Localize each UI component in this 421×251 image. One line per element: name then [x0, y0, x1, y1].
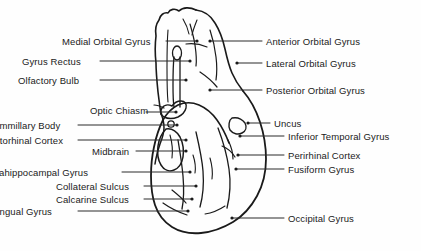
lingual-gyrus-edge — [163, 203, 187, 215]
leader-dot-left-5 — [184, 138, 187, 141]
label-gyrus-rectus: Gyrus Rectus — [22, 56, 81, 67]
orbital-sulcus-short-a — [183, 19, 189, 34]
fusiform-detail — [210, 158, 212, 179]
orbital-sulcus-posterior — [200, 72, 217, 87]
orbital-sulcus-lateral — [210, 30, 217, 80]
label-lingual-gyrus: Lingual Gyrus — [0, 206, 52, 217]
label-perirhinal-cortex: Perirhinal Cortex — [288, 150, 360, 161]
leader-dot-left-7 — [188, 170, 191, 173]
label-collateral-sulcus: Collateral Sulcus — [56, 181, 129, 192]
cerebral-peduncle-line — [170, 135, 172, 158]
leader-dot-right-2 — [208, 88, 211, 91]
leader-dot-right-4 — [238, 134, 241, 137]
label-parahippocampal-gyrus: Parahippocampal Gyrus — [0, 167, 88, 178]
label-inferior-temporal-gyrus: Inferior Temporal Gyrus — [288, 131, 389, 142]
leader-dot-left-6 — [184, 149, 187, 152]
uncus — [229, 118, 246, 134]
leader-dot-left-1 — [188, 59, 191, 62]
leader-dot-left-10 — [186, 209, 189, 212]
label-occipital-gyrus: Occipital Gyrus — [288, 213, 354, 224]
leader-dot-left-8 — [194, 184, 197, 187]
leader-dot-left-9 — [190, 197, 193, 200]
leader-dot-right-1 — [235, 61, 238, 64]
leader-dot-right-7 — [230, 216, 233, 219]
leader-dot-left-4 — [175, 123, 178, 126]
orbital-sulcus-cross — [186, 44, 207, 47]
orbital-sulcus-short-b — [192, 20, 197, 35]
olfactory-tract — [173, 57, 174, 107]
leader-dot-right-5 — [236, 153, 239, 156]
olfactory-bulb — [173, 46, 182, 60]
label-fusiform-gyrus: Fusiform Gyrus — [288, 164, 354, 175]
frontal-lobe-outline-right — [196, 10, 243, 91]
leader-dot-left-0 — [195, 39, 198, 42]
label-mammillary-body: Mammillary Body — [0, 120, 60, 131]
figure-canvas: Medial Orbital GyrusGyrus RectusOlfactor… — [0, 0, 421, 251]
leader-dot-right-0 — [208, 39, 211, 42]
leader-dot-left-3 — [174, 110, 177, 113]
leader-dot-right-6 — [234, 167, 237, 170]
label-calcarine-sulcus: Calcarine Sulcus — [56, 194, 129, 205]
collateral-sulcus — [196, 132, 203, 207]
temporal-sulcus-short — [193, 155, 195, 173]
label-midbrain: Midbrain — [92, 146, 129, 157]
label-anterior-orbital-gyrus: Anterior Orbital Gyrus — [266, 36, 360, 47]
label-posterior-orbital-gyrus: Posterior Orbital Gyrus — [266, 85, 365, 96]
occipital-detail — [205, 206, 225, 214]
label-medial-orbital-gyrus: Medial Orbital Gyrus — [62, 36, 151, 47]
label-entorhinal-cortex: Entorhinal Cortex — [0, 135, 63, 146]
leader-dot-left-2 — [184, 78, 187, 81]
label-olfactory-bulb: Olfactory Bulb — [18, 75, 79, 86]
label-optic-chiasm: Optic Chiasm — [90, 105, 148, 116]
label-lateral-orbital-gyrus: Lateral Orbital Gyrus — [266, 58, 356, 69]
leader-dot-layer — [174, 39, 249, 219]
temporal-pole-outline — [163, 103, 229, 143]
mammillary-body — [168, 121, 174, 127]
leader-dot-right-3 — [246, 121, 249, 124]
label-uncus: Uncus — [274, 118, 301, 129]
